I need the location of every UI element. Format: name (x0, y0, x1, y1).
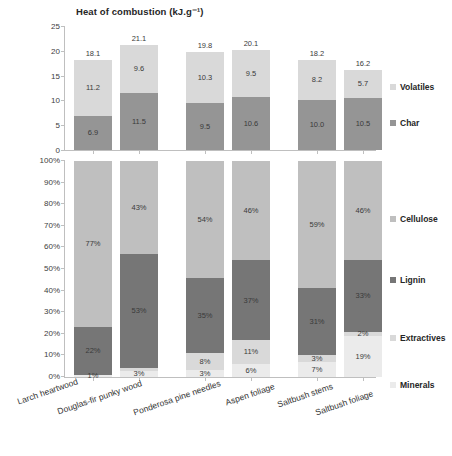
segment-value-label: 31% (309, 318, 324, 326)
legend-label: Cellulose (400, 214, 438, 224)
table-row[interactable]: 11.26.918.1 (74, 60, 112, 150)
bottom-bar-segment-cellulose: 59% (298, 161, 336, 288)
table-row[interactable]: 46%37%11%6% (232, 161, 270, 377)
bottom-y-tick-mark (61, 290, 64, 291)
top-y-tick-mark (61, 125, 64, 126)
segment-value-label: 9.5 (200, 123, 210, 131)
bottom-y-tick-mark (61, 333, 64, 334)
segment-value-label: 59% (309, 221, 324, 229)
legend-label: Lignin (400, 275, 426, 285)
top-bar-segment-char: 6.9 (74, 116, 112, 150)
bottom-bar-segment-minerals: 19% (344, 336, 382, 377)
bottom-y-axis-line (64, 160, 65, 378)
legend-label: Char (400, 118, 419, 128)
top-bar-segment-volatiles: 9.6 (120, 45, 158, 93)
table-row[interactable]: 46%33%2%19% (344, 161, 382, 377)
top-y-tick-mark (61, 51, 64, 52)
bar-total-label: 18.1 (74, 49, 112, 58)
top-y-tick-label: 20 (38, 46, 60, 55)
top-bar-segment-char: 9.5 (186, 103, 224, 150)
bottom-bar-segment-minerals: 3% (120, 371, 158, 377)
bottom-bar-segment-lignin: 33% (344, 260, 382, 331)
segment-value-label: 6.9 (88, 129, 98, 137)
table-row[interactable]: 9.510.620.1 (232, 50, 270, 150)
top-bar-segment-char: 10.0 (298, 100, 336, 150)
segment-value-label: 54% (197, 216, 212, 224)
table-row[interactable]: 9.611.521.1 (120, 45, 158, 150)
top-bar-segment-char: 10.5 (344, 98, 382, 150)
legend-swatch-icon (390, 335, 396, 341)
bottom-y-tick-mark (61, 225, 64, 226)
top-y-tick-mark (61, 150, 64, 151)
table-row[interactable]: 54%35%8%3% (186, 161, 224, 377)
heat-of-combustion-chart: Heat of combustion (kJ.g⁻¹) 2520151050 1… (0, 0, 452, 152)
bottom-y-tick-label: 60% (34, 242, 60, 251)
bar-total-label: 18.2 (298, 49, 336, 58)
top-bar-segment-volatiles: 8.2 (298, 60, 336, 101)
segment-value-label: 3% (120, 370, 158, 378)
top-bar-segment-volatiles: 9.5 (232, 50, 270, 97)
bottom-y-tick-mark (61, 268, 64, 269)
top-y-tick-label: 5 (38, 121, 60, 130)
bottom-y-tick-mark (61, 203, 64, 204)
bar-total-label: 20.1 (232, 39, 270, 48)
bottom-y-tick-label: 40% (34, 285, 60, 294)
bottom-bar-segment-lignin: 31% (298, 288, 336, 355)
bottom-bar-segment-cellulose: 54% (186, 161, 224, 278)
bottom-bar-segment-cellulose: 46% (232, 161, 270, 260)
legend-label: Extractives (400, 333, 445, 343)
composition-chart: 100%90%80%70%60%50%40%30%20%10%0% 77%22%… (0, 152, 452, 387)
bottom-bar-segment-lignin: 37% (232, 260, 270, 340)
bottom-x-tick-mark (317, 378, 318, 381)
table-row[interactable]: 43%53%3% (120, 161, 158, 377)
bottom-bar-segment-cellulose: 77% (74, 161, 112, 327)
top-bar-segment-volatiles: 5.7 (344, 70, 382, 98)
bottom-y-tick-mark (61, 354, 64, 355)
combustion-composition-figure: Heat of combustion (kJ.g⁻¹) 2520151050 1… (0, 0, 452, 456)
segment-value-label: 8% (186, 358, 224, 366)
segment-value-label: 46% (243, 207, 258, 215)
segment-value-label: 5.7 (358, 80, 368, 88)
legend-item-char[interactable]: Char (390, 118, 419, 128)
table-row[interactable]: 5.710.516.2 (344, 70, 382, 150)
segment-value-label: 11.2 (86, 84, 100, 92)
segment-value-label: 9.5 (246, 70, 256, 78)
legend-item-cellulose[interactable]: Cellulose (390, 214, 438, 224)
bottom-y-tick-mark (61, 311, 64, 312)
table-row[interactable]: 10.39.519.8 (186, 52, 224, 150)
legend-item-lignin[interactable]: Lignin (390, 275, 426, 285)
top-x-axis-line (64, 150, 376, 151)
bottom-bar-segment-lignin: 22% (74, 327, 112, 375)
bottom-y-tick-label: 10% (34, 350, 60, 359)
legend-swatch-icon (390, 277, 396, 283)
bottom-y-tick-mark (61, 182, 64, 183)
segment-value-label: 8.2 (312, 76, 322, 84)
segment-value-label: 10.3 (198, 74, 213, 82)
legend-swatch-icon (390, 84, 396, 90)
bottom-bar-segment-extractives: 8% (186, 353, 224, 370)
segment-value-label: 46% (355, 207, 370, 215)
bottom-bar-segment-minerals: 7% (298, 362, 336, 377)
bottom-bar-segment-minerals: 3% (186, 370, 224, 376)
bottom-y-tick-label: 100% (34, 156, 60, 165)
table-row[interactable]: 59%31%3%7% (298, 161, 336, 377)
bottom-y-tick-label: 70% (34, 220, 60, 229)
top-y-tick-label: 15 (38, 71, 60, 80)
top-y-tick-label: 25 (38, 22, 60, 31)
bottom-bar-segment-minerals: 6% (232, 364, 270, 377)
segment-value-label: 19% (355, 353, 370, 361)
bottom-y-tick-label: 0% (34, 372, 60, 381)
bottom-x-tick-mark (93, 378, 94, 381)
bottom-y-tick-label: 20% (34, 328, 60, 337)
segment-value-label: 11.5 (132, 118, 146, 126)
bar-total-label: 16.2 (344, 59, 382, 68)
segment-value-label: 10.5 (356, 120, 371, 128)
top-bar-segment-volatiles: 10.3 (186, 52, 224, 103)
segment-value-label: 77% (85, 240, 100, 248)
table-row[interactable]: 77%22%1% (74, 161, 112, 377)
top-plot-area: 2520151050 11.26.918.19.611.521.110.39.5… (64, 26, 376, 151)
table-row[interactable]: 8.210.018.2 (298, 60, 336, 150)
legend-item-extractives[interactable]: Extractives (390, 333, 445, 343)
legend-item-volatiles[interactable]: Volatiles (390, 82, 434, 92)
top-y-axis-line (64, 26, 65, 151)
